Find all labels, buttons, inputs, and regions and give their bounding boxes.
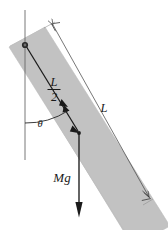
- half-length-denominator: 2: [51, 90, 57, 104]
- diagram-canvas: L 2 θ Mg L: [0, 0, 168, 230]
- full-length-label: L: [100, 101, 108, 115]
- angle-label: θ: [37, 118, 42, 129]
- pivot-point: [22, 42, 28, 48]
- half-length-numerator: L: [50, 75, 58, 89]
- physics-diagram-figure: L 2 θ Mg L: [0, 0, 168, 230]
- weight-label: Mg: [52, 170, 71, 185]
